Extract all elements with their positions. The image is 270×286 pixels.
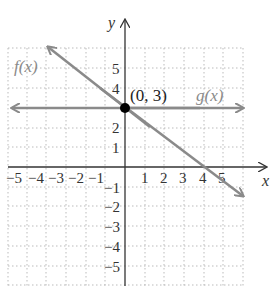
coordinate-graph: y x −5 −4 −3 −2 −1 1 2 3 4 5 5 4 2 1 −1 … <box>0 0 270 286</box>
svg-text:2: 2 <box>160 170 168 186</box>
svg-text:4: 4 <box>199 170 207 186</box>
svg-text:−4: −4 <box>28 170 44 186</box>
g-label: g(x) <box>196 86 224 105</box>
svg-text:−2: −2 <box>68 170 84 186</box>
svg-text:5: 5 <box>112 61 120 77</box>
svg-text:−3: −3 <box>48 170 64 186</box>
x-axis-label: x <box>261 172 269 189</box>
svg-text:−1: −1 <box>104 180 120 196</box>
y-axis-label: y <box>106 14 116 32</box>
point-label: (0, 3) <box>130 86 167 105</box>
f-label: f(x) <box>14 57 38 76</box>
svg-text:−5: −5 <box>6 170 22 186</box>
svg-text:1: 1 <box>112 140 120 156</box>
svg-text:−3: −3 <box>104 219 120 235</box>
svg-text:4: 4 <box>112 81 120 97</box>
svg-text:−5: −5 <box>104 259 120 275</box>
svg-text:2: 2 <box>112 120 120 136</box>
svg-text:3: 3 <box>179 170 187 186</box>
svg-text:1: 1 <box>141 170 149 186</box>
intersection-point <box>120 103 130 113</box>
svg-text:−2: −2 <box>104 199 120 215</box>
svg-text:−4: −4 <box>104 239 120 255</box>
svg-text:−1: −1 <box>88 170 104 186</box>
